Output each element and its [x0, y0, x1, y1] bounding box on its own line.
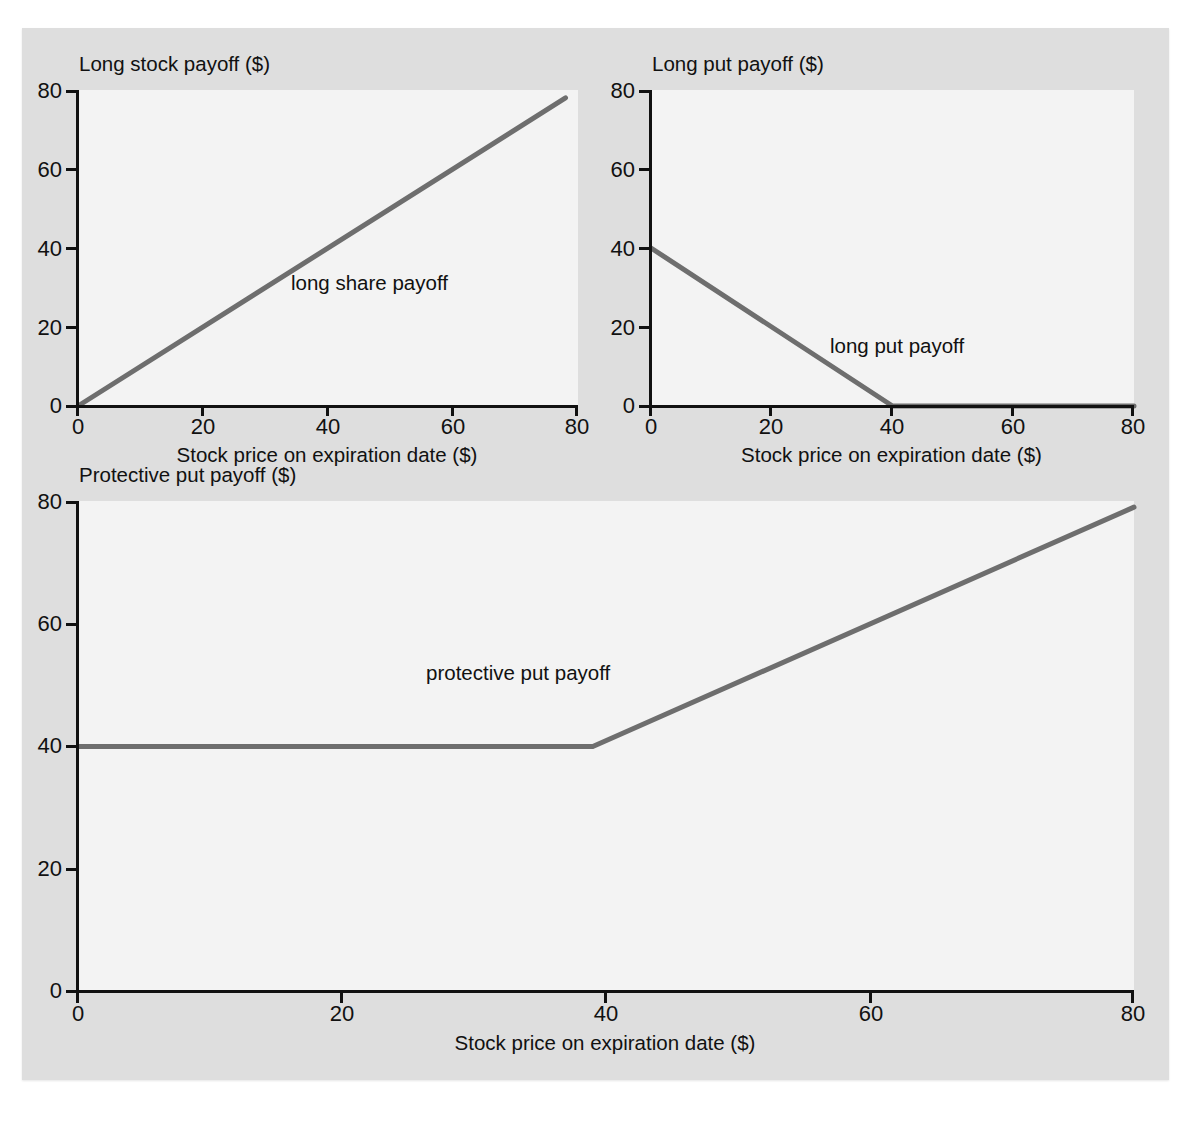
y-tick-label-protective-put: 60 [6, 611, 62, 637]
y-tick-protective-put [66, 623, 76, 626]
figure-root: Long stock payoff ($) 80 60 40 20 0 0 20… [0, 0, 1190, 1127]
y-axis-long-stock [76, 90, 79, 408]
panel-title-long-put: Long put payoff ($) [652, 52, 824, 76]
series-long-share-payoff [78, 90, 578, 406]
x-tick-label-long-stock: 60 [423, 414, 483, 440]
y-tick-long-stock [66, 326, 76, 329]
panel-long-stock [78, 90, 578, 406]
series-protective-put-payoff [78, 501, 1134, 992]
panel-title-long-stock: Long stock payoff ($) [79, 52, 270, 76]
series-long-put-payoff [651, 90, 1134, 406]
x-tick-label-long-put: 20 [741, 414, 801, 440]
x-axis-caption-protective-put: Stock price on expiration date ($) [76, 1031, 1134, 1055]
y-tick-label-long-stock: 80 [6, 78, 62, 104]
y-tick-label-long-stock: 40 [6, 236, 62, 262]
x-axis-caption-long-put: Stock price on expiration date ($) [649, 443, 1134, 467]
y-tick-long-put [639, 247, 649, 250]
y-tick-label-long-stock: 60 [6, 157, 62, 183]
y-tick-label-protective-put: 20 [6, 856, 62, 882]
y-tick-label-long-put: 60 [579, 157, 635, 183]
y-tick-label-long-put: 20 [579, 315, 635, 341]
x-tick-label-long-stock: 0 [48, 414, 108, 440]
y-tick-label-long-put: 80 [579, 78, 635, 104]
y-tick-long-put [639, 405, 649, 408]
y-tick-protective-put [66, 501, 76, 504]
annotation-protective-put-payoff: protective put payoff [426, 661, 610, 685]
panel-title-protective-put: Protective put payoff ($) [79, 463, 296, 487]
panel-protective-put [78, 501, 1134, 992]
panel-long-put [651, 90, 1134, 406]
y-tick-long-stock [66, 168, 76, 171]
x-tick-label-protective-put: 40 [576, 1001, 636, 1027]
x-tick-label-protective-put: 60 [841, 1001, 901, 1027]
y-tick-label-long-stock: 20 [6, 315, 62, 341]
y-tick-protective-put [66, 868, 76, 871]
y-axis-long-put [649, 90, 652, 408]
x-tick-label-long-stock: 20 [173, 414, 233, 440]
x-tick-label-protective-put: 80 [1103, 1001, 1163, 1027]
y-axis-protective-put [76, 501, 79, 993]
x-tick-label-long-stock: 40 [298, 414, 358, 440]
y-tick-long-put [639, 326, 649, 329]
y-tick-long-stock [66, 405, 76, 408]
x-tick-label-long-put: 40 [862, 414, 922, 440]
y-tick-long-put [639, 168, 649, 171]
x-tick-label-long-put: 0 [621, 414, 681, 440]
x-tick-label-long-put: 80 [1103, 414, 1163, 440]
y-tick-label-protective-put: 80 [6, 489, 62, 515]
y-tick-long-stock [66, 90, 76, 93]
x-tick-label-protective-put: 0 [48, 1001, 108, 1027]
annotation-long-put-payoff: long put payoff [830, 334, 964, 358]
y-tick-long-stock [66, 247, 76, 250]
y-tick-long-put [639, 90, 649, 93]
x-tick-label-protective-put: 20 [312, 1001, 372, 1027]
y-tick-protective-put [66, 990, 76, 993]
x-tick-label-long-put: 60 [983, 414, 1043, 440]
cut-off-header-text [28, 0, 448, 8]
y-tick-protective-put [66, 745, 76, 748]
annotation-long-share-payoff: long share payoff [291, 271, 448, 295]
y-tick-label-protective-put: 40 [6, 733, 62, 759]
y-tick-label-long-put: 40 [579, 236, 635, 262]
